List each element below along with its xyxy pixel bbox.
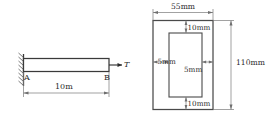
- label-left-wall: 5mm: [158, 58, 176, 65]
- label-outer-height: 110mm: [236, 59, 265, 67]
- engineering-diagram: [0, 0, 268, 124]
- torque-arrow: [109, 63, 122, 67]
- dimension-110mm: [213, 21, 234, 110]
- label-torque-t: T: [124, 61, 129, 69]
- label-right-wall: 5mm: [184, 66, 202, 73]
- dimension-line-10m: [24, 91, 110, 94]
- fixed-support-hatching: [19, 53, 24, 86]
- label-support-a: A: [24, 74, 30, 82]
- label-beam-length: 10m: [55, 83, 73, 91]
- label-top-wall: 10mm: [188, 24, 211, 31]
- beam-body: [24, 59, 110, 72]
- label-free-end-b: B: [104, 74, 110, 82]
- label-bottom-wall: 10mm: [188, 100, 211, 107]
- label-outer-width: 55mm: [171, 3, 195, 11]
